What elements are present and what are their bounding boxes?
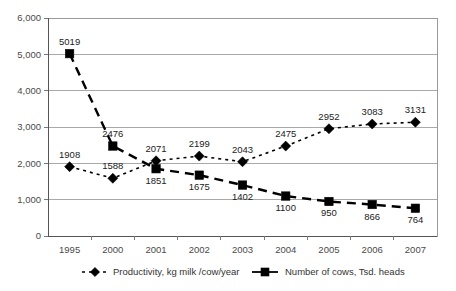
y-tick-label: 6,000 (17, 12, 41, 23)
data-label: 2043 (232, 144, 253, 155)
line-chart: 01,0002,0003,0004,0005,0006,000 19952000… (0, 0, 456, 291)
diamond-marker (194, 151, 204, 161)
data-label: 1100 (276, 202, 296, 213)
x-tick-label: 2006 (362, 244, 383, 255)
data-label: 1908 (59, 149, 80, 160)
square-marker (325, 197, 333, 205)
x-tick-label: 2003 (232, 244, 253, 255)
diamond-marker (324, 124, 334, 134)
data-label: 866 (364, 211, 380, 222)
square-marker (65, 49, 73, 57)
x-tick-label: 2000 (102, 244, 123, 255)
data-label: 1588 (102, 160, 123, 171)
x-tick-label: 2004 (275, 244, 296, 255)
data-label: 1675 (189, 181, 210, 192)
data-label: 1402 (232, 191, 253, 202)
y-tick-label: 5,000 (17, 49, 41, 60)
data-label: 2199 (189, 138, 210, 149)
y-tick-label: 3,000 (17, 121, 41, 132)
x-tick-label: 2007 (405, 244, 426, 255)
chart-container: 01,0002,0003,0004,0005,0006,000 19952000… (0, 0, 456, 291)
square-marker (261, 268, 269, 276)
data-label: 2476 (102, 128, 123, 139)
data-label: 2475 (275, 128, 296, 139)
square-marker (195, 171, 203, 179)
diamond-marker (238, 157, 248, 167)
y-tick-label: 0 (36, 230, 41, 241)
y-tick-label: 2,000 (17, 158, 41, 169)
square-marker (109, 142, 117, 150)
square-marker (368, 200, 376, 208)
x-tick-label: 2001 (145, 244, 166, 255)
x-tick-label: 1995 (59, 244, 80, 255)
data-label: 3131 (405, 104, 426, 115)
data-label: 950 (321, 207, 337, 218)
y-axis-ticks-group: 01,0002,0003,0004,0005,0006,000 (17, 12, 48, 241)
square-marker (152, 165, 160, 173)
data-label: 3083 (362, 106, 383, 117)
x-tick-label: 2002 (189, 244, 210, 255)
data-labels-group: 1908158820712199204324752952308331315019… (59, 36, 426, 226)
square-marker (282, 192, 290, 200)
data-label: 764 (407, 214, 423, 225)
data-label: 2952 (318, 111, 339, 122)
data-label: 1851 (145, 175, 166, 186)
x-tick-label: 2005 (318, 244, 339, 255)
y-tick-label: 1,000 (17, 194, 41, 205)
diamond-marker (281, 141, 291, 151)
data-label: 2071 (145, 143, 166, 154)
diamond-marker (90, 267, 99, 276)
square-marker (411, 204, 419, 212)
legend-label-cows: Number of cows, Tsd. heads (285, 266, 405, 277)
square-marker (238, 181, 246, 189)
legend-label-productivity: Productivity, kg milk /cow/year (113, 266, 240, 277)
x-axis-ticks-group: 199520002001200220032004200520062007 (59, 236, 426, 255)
chart-legend: Productivity, kg milk /cow/yearNumber of… (82, 266, 405, 277)
diamond-marker (108, 173, 118, 183)
y-tick-label: 4,000 (17, 85, 41, 96)
data-label: 5019 (59, 36, 80, 47)
diamond-marker (410, 117, 420, 127)
